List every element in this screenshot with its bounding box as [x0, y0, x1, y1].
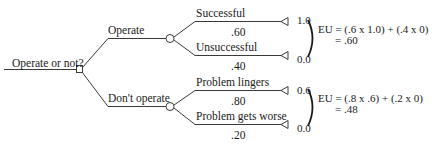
terminal-triangle-1: [281, 18, 288, 26]
alternative-label-dont-operate: Don't operate: [108, 92, 170, 104]
utility-problem-lingers: 0.6: [297, 84, 311, 96]
terminal-triangle-2: [281, 52, 288, 60]
decision-tree-lines: [0, 0, 442, 144]
probability-successful: .60: [231, 26, 245, 38]
outcome-label-unsuccessful: Unsuccessful: [196, 41, 257, 53]
eu-formula-dont-operate: EU = (.8 x .6) + (.2 x 0): [318, 93, 423, 104]
alternative-label-operate: Operate: [108, 24, 144, 36]
probability-unsuccessful: .40: [231, 60, 245, 72]
utility-unsuccessful: 0.0: [297, 53, 311, 65]
utility-successful: 1.0: [297, 14, 311, 26]
probability-problem-lingers: .80: [231, 95, 245, 107]
chance-node-operate: [166, 35, 174, 43]
outcome-label-problem-lingers: Problem lingers: [196, 76, 269, 88]
outcome-label-problem-gets-worse: Problem gets worse: [196, 110, 287, 122]
outcome-label-successful: Successful: [196, 7, 245, 19]
decision-label: Operate or not?: [12, 57, 84, 69]
terminal-triangle-3: [281, 87, 288, 95]
eu-result-operate: = .60: [335, 35, 358, 46]
probability-problem-gets-worse: .20: [231, 129, 245, 141]
eu-result-dont-operate: = .48: [335, 104, 358, 115]
utility-problem-gets-worse: 0.0: [297, 122, 311, 134]
